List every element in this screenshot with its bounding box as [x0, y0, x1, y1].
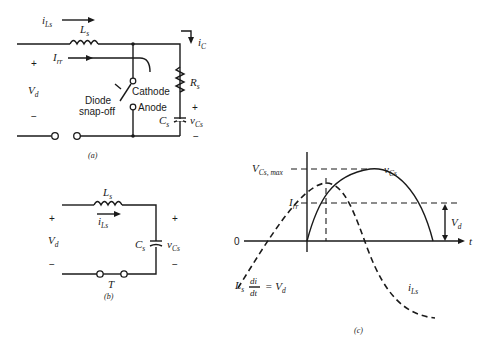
label-switch-T: T [108, 278, 115, 290]
label-minus-b-cs: − [172, 259, 178, 270]
caption-c: (c) [354, 326, 363, 335]
label-ic: iC [198, 36, 207, 51]
arrow-ic-head [188, 37, 194, 44]
vd-arrow-up-icon [442, 204, 448, 210]
label-vCs-b: vCs [167, 238, 180, 253]
label-minus-cs: − [193, 131, 199, 142]
label-plus-cs: + [192, 102, 198, 113]
label-vd-c: Vd [451, 216, 462, 231]
snubber-diagram: iLs Ls Irr iC + Vd − Diode snap-off Cath… [0, 0, 489, 338]
label-iLs-b: iLs [98, 215, 108, 230]
label-vcs-curve: vCs [384, 163, 397, 178]
wire-b-top-right [122, 205, 156, 241]
inductor-ls-coil [70, 41, 98, 45]
arrow-irr-head [86, 55, 93, 61]
anode-terminal [130, 104, 136, 110]
label-snap-off: snap-off [79, 106, 115, 117]
svg-text:dt: dt [250, 288, 258, 298]
junction-bottom [131, 134, 135, 138]
label-minus-b: − [49, 259, 55, 270]
label-minus-a: − [31, 111, 37, 122]
svg-text:Ls: Ls [234, 279, 244, 294]
label-diode: Diode [85, 95, 112, 106]
cathode-terminal [130, 78, 136, 84]
label-Ls-b: Ls [102, 186, 112, 201]
inductor-ls-b [94, 202, 122, 206]
snap-off-switch-arm [120, 84, 131, 101]
arrow-iLs-b-head [114, 211, 121, 217]
label-Ls: Ls [79, 23, 89, 38]
label-Cs-b: Cs [135, 238, 145, 253]
switch-terminal-1 [52, 133, 59, 140]
label-Rs: Rs [189, 76, 200, 91]
vd-arrow-down-icon [442, 235, 448, 241]
caption-a: (a) [88, 151, 98, 160]
capacitor-gap [177, 119, 183, 121]
circuit-a: iLs Ls Irr iC + Vd − Diode snap-off Cath… [17, 14, 207, 160]
label-t: t [469, 235, 473, 247]
label-Irr: Irr [52, 51, 63, 66]
waveform-c: VCs, max Irr 0 t Vd vCs iLs Ls di dt = V… [234, 152, 473, 335]
label-vcs-max: VCs, max [252, 162, 284, 177]
switch-t-terminal-2 [121, 271, 127, 277]
snap-off-switch-tick [115, 84, 121, 89]
arrow-iLs-head [88, 17, 95, 23]
caption-b: (b) [104, 292, 114, 301]
label-anode: Anode [138, 102, 167, 113]
t-axis-arrow-icon [458, 238, 465, 244]
label-plus-b-cs: + [172, 213, 178, 224]
label-Vd-a: Vd [28, 84, 39, 99]
label-Cs-a: Cs [159, 114, 169, 129]
label-cathode: Cathode [132, 86, 170, 97]
label-plus-a: + [31, 58, 37, 69]
label-plus-b: + [49, 213, 55, 224]
junction-top [131, 42, 135, 46]
svg-text:di: di [250, 276, 258, 286]
switch-terminal-2 [74, 133, 81, 140]
label-irr-c: Irr [288, 196, 299, 211]
arrow-irr-line [68, 58, 150, 72]
arrow-ic-line [181, 31, 191, 38]
equation-ls-di-dt: Ls di dt = Vd [234, 276, 286, 298]
switch-t-terminal-1 [97, 271, 103, 277]
label-ils-curve: iLs [408, 281, 418, 296]
label-Vd-b: Vd [48, 234, 59, 249]
svg-text:= Vd: = Vd [265, 280, 286, 295]
capacitor-b-plate2 [150, 245, 162, 247]
label-zero: 0 [234, 236, 240, 247]
circuit-b: Ls iLs + Vd − Cs + vCs − T (b) [48, 186, 180, 301]
label-vCs-a: vCs [190, 114, 203, 129]
label-iLs: iLs [42, 14, 52, 29]
